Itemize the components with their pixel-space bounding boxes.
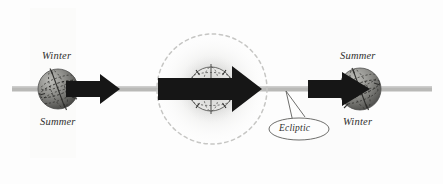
label-right-bottom: Winter bbox=[343, 116, 372, 127]
label-left-bottom: Summer bbox=[40, 116, 76, 127]
label-ecliptic-callout: Ecliptic bbox=[279, 123, 310, 133]
label-left-top: Winter bbox=[42, 50, 71, 61]
diagram-svg bbox=[0, 0, 443, 184]
diagram-canvas: Winter Summer Summer Winter Ecliptic bbox=[0, 0, 443, 184]
label-right-top: Summer bbox=[340, 50, 376, 61]
